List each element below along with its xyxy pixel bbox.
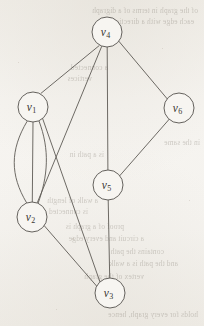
- graph-edge: [14, 122, 27, 203]
- graph-edge: [107, 47, 108, 170]
- graph-node-v2: v2: [17, 202, 47, 232]
- graph-edge: [41, 46, 99, 94]
- graph-node-v5: v5: [93, 170, 123, 200]
- graph-node-v6: v6: [164, 93, 194, 123]
- graph-node-v4: v4: [92, 17, 122, 47]
- graph-node-v3: v3: [95, 278, 125, 308]
- graph-edge: [44, 225, 97, 286]
- graph-edge: [119, 41, 167, 98]
- graph-canvas: v1v2v3v4v5v6: [0, 0, 204, 326]
- graph-figure: of the graph in terms of a digrapheach e…: [0, 0, 204, 326]
- graph-node-v1: v1: [18, 92, 48, 122]
- graph-edge: [32, 122, 33, 202]
- node-group: v1v2v3v4v5v6: [17, 17, 194, 308]
- graph-edge: [38, 121, 46, 204]
- edge-group: [14, 41, 169, 286]
- graph-edge: [108, 200, 110, 278]
- graph-edge: [120, 119, 170, 176]
